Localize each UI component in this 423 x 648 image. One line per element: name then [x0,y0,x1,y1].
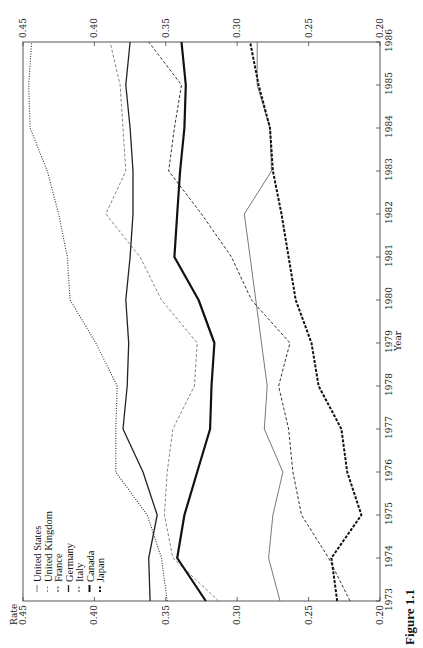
year-tick-label: 1978 [384,373,394,396]
legend-label: United Kingdom [43,511,54,582]
year-tick-label: 1981 [384,244,394,267]
legend-label: Japan [95,557,106,582]
year-tick-label: 1983 [384,158,394,181]
year-tick-label: 1974 [384,545,394,568]
rate-tick-label-top: 0.25 [304,18,314,38]
year-tick-label: 1984 [384,115,394,138]
rate-tick-label-top: 0.30 [232,18,242,38]
rotated-line-chart: 0.200.200.250.250.300.300.350.350.400.40… [0,0,423,648]
series-layer [29,42,362,601]
rate-tick-label-top: 0.40 [89,18,99,38]
year-tick-label: 1986 [384,29,394,52]
rate-tick-label-bottom: 0.45 [18,605,28,625]
year-tick-label: 1977 [384,416,394,439]
legend-label: Canada [85,550,96,582]
figure-caption-text: Figure 1.1 [402,589,417,645]
series-canada [174,42,214,601]
legend-label: United States [32,526,43,582]
rate-axis-title: Rate [9,604,19,625]
series-germany [123,42,157,601]
rate-tick-label-top: 0.35 [161,18,171,38]
rate-tick-label-bottom: 0.25 [304,605,314,625]
rate-tick-label-bottom: 0.30 [232,605,242,625]
year-tick-label: 1985 [384,72,394,95]
legend-label: France [53,553,64,582]
year-axis-title: Year [393,330,403,352]
plot-frame [23,42,380,601]
legend-label: Italy [74,562,85,582]
year-tick-label: 1976 [384,459,394,482]
year-tick-label: 1982 [384,201,394,224]
series-japan [250,42,361,601]
rate-tick-label-top: 0.45 [18,18,28,38]
legend-label: Germany [64,542,75,582]
year-tick-label: 1975 [384,502,394,525]
rate-tick-label-bottom: 0.35 [161,605,171,625]
series-united-kingdom [106,42,219,601]
year-tick-label: 1980 [384,287,394,310]
figure-caption: Figure 1.1 [402,589,417,645]
rate-tick-label-bottom: 0.40 [89,605,99,625]
plot-border [23,42,380,601]
legend: United StatesUnited KingdomFranceGermany… [32,511,106,592]
series-united-states [244,42,283,601]
year-tick-label: 1973 [384,588,394,611]
